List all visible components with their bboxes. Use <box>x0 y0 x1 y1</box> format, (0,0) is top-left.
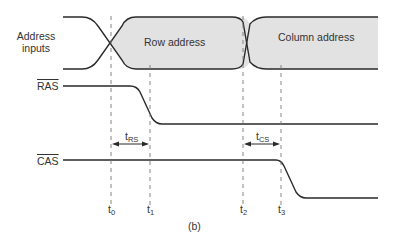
t-rs-label: tRS <box>125 130 138 145</box>
t3-label: t3 <box>278 203 285 218</box>
cas-waveform <box>63 160 378 198</box>
figure-caption: (b) <box>188 220 201 232</box>
ras-label: RAS <box>37 80 59 92</box>
t1-sub: 1 <box>150 208 154 217</box>
address-inputs-label: Address inputs <box>14 30 58 54</box>
cas-label: CAS <box>37 155 59 167</box>
t3-sub: 3 <box>281 208 285 217</box>
ras-waveform <box>63 86 378 124</box>
t-cs-sub: CS <box>259 135 269 144</box>
t2-label: t2 <box>240 203 247 218</box>
t1-label: t1 <box>147 203 154 218</box>
t0-sub: 0 <box>111 208 115 217</box>
t0-label: t0 <box>108 203 115 218</box>
t2-sub: 2 <box>243 208 247 217</box>
t-rs-sub: RS <box>128 135 138 144</box>
row-address-label: Row address <box>144 36 205 48</box>
address-label-line1: Address <box>14 30 58 42</box>
address-label-line2: inputs <box>14 42 58 54</box>
column-address-label: Column address <box>278 31 354 43</box>
t-cs-label: tCS <box>256 130 269 145</box>
